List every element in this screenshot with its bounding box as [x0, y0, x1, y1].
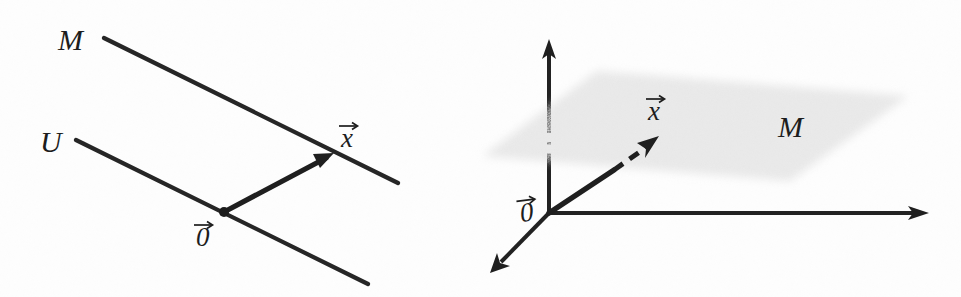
plane-m-region: [455, 55, 935, 200]
figure-canvas: M U x 0: [0, 0, 961, 297]
label-zero-left: 0: [196, 222, 210, 252]
origin-point-dot: [219, 207, 229, 217]
label-m-left: M: [57, 23, 85, 56]
label-x-left: x: [340, 123, 353, 153]
math-figure-container: M U x 0: [0, 0, 961, 297]
label-x-right: x: [647, 96, 660, 126]
label-u-left: U: [40, 125, 64, 158]
label-m-right: M: [777, 110, 805, 143]
